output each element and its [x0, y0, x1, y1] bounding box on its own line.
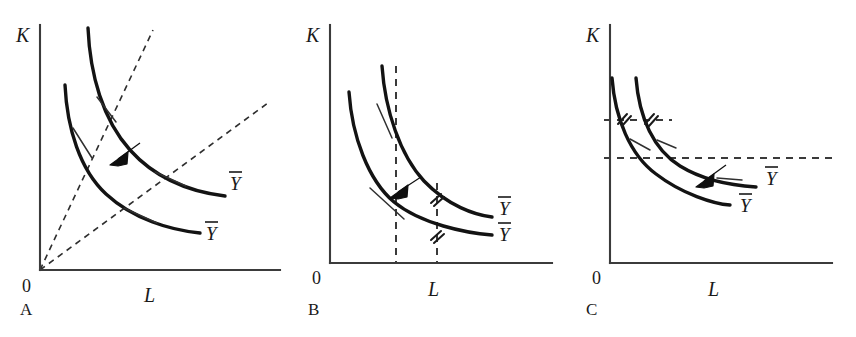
isoquant-figure: K L 0 Y Y A — [0, 0, 856, 337]
panel-letter-b: B — [308, 300, 320, 320]
origin-label: 0 — [592, 268, 601, 288]
svg-text:Y: Y — [230, 173, 243, 194]
x-axis-label: L — [427, 278, 439, 300]
curve-label-outer: Y — [765, 167, 779, 189]
y-axis-label: K — [585, 24, 601, 46]
tangency-segment-outer-lower — [155, 172, 186, 186]
panel-b-canvas: K L 0 Y Y — [290, 0, 570, 337]
tangency-segment-inner-lower — [124, 208, 157, 223]
svg-text:Y: Y — [740, 195, 753, 216]
x-axis-label: L — [143, 284, 155, 306]
y-axis-label: K — [15, 24, 31, 46]
curve-label-outer: Y — [498, 197, 512, 219]
panel-c-canvas: K L 0 Y Y — [570, 0, 856, 337]
panel-b: K L 0 Y Y B — [290, 0, 570, 337]
origin-label: 0 — [312, 268, 321, 288]
origin-label: 0 — [22, 276, 31, 296]
curve-label-inner: Y — [205, 222, 219, 244]
tangency-segment-outer-lower — [717, 178, 742, 180]
svg-text:Y: Y — [499, 224, 512, 245]
panel-a-canvas: K L 0 Y Y — [0, 0, 290, 337]
curve-label-inner: Y — [498, 223, 512, 245]
shift-arrow — [390, 177, 421, 199]
y-axis-label: K — [305, 24, 321, 46]
tangency-segment-outer-upper — [97, 97, 116, 122]
inner-isoquant-curve — [65, 85, 200, 233]
curve-label-outer: Y — [229, 172, 243, 194]
steep-ray-dashed — [40, 30, 153, 270]
svg-text:Y: Y — [499, 198, 512, 219]
svg-text:Y: Y — [766, 168, 779, 189]
panel-letter-c: C — [586, 300, 598, 320]
panel-letter-a: A — [20, 300, 33, 320]
curve-label-inner: Y — [739, 194, 753, 216]
panel-c: K L 0 Y Y C — [570, 0, 856, 337]
svg-text:Y: Y — [206, 223, 219, 244]
panel-a: K L 0 Y Y A — [0, 0, 290, 337]
x-axis-label: L — [707, 278, 719, 300]
